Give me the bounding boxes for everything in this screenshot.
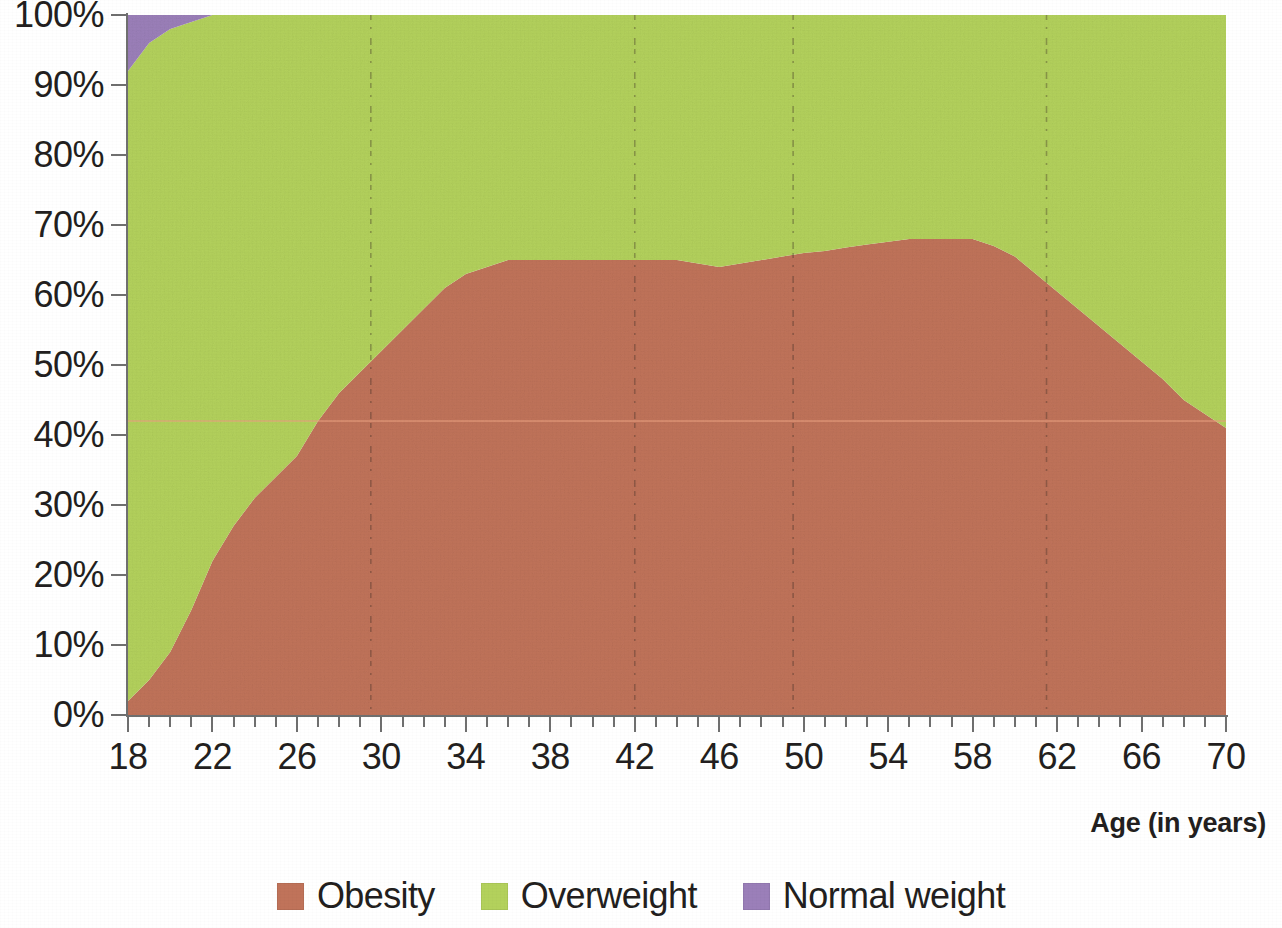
x-axis-tick-minor: [1077, 717, 1079, 727]
area-series-group: [128, 15, 1226, 715]
y-axis-tick: [111, 504, 126, 506]
x-axis-tick-minor: [908, 717, 910, 727]
x-axis-tick-minor: [507, 717, 509, 727]
y-axis-tick: [111, 84, 126, 86]
y-axis-line: [126, 13, 128, 717]
x-axis-tick-label: 58: [938, 737, 1008, 777]
x-axis-tick-minor: [929, 717, 931, 727]
x-axis-tick-minor: [592, 717, 594, 727]
plot-area: [128, 15, 1226, 715]
x-axis-tick-label: 42: [600, 737, 670, 777]
y-axis-tick: [111, 294, 126, 296]
x-axis-tick-label: 70: [1191, 737, 1261, 777]
x-axis-tick-minor: [993, 717, 995, 727]
x-axis-tick-major: [211, 717, 213, 732]
x-axis-tick-label: 46: [684, 737, 754, 777]
x-axis-tick-major: [634, 717, 636, 732]
stacked-area-plot: [128, 15, 1226, 715]
y-axis-tick: [111, 154, 126, 156]
y-axis-tick-label: 60%: [0, 277, 104, 313]
x-axis-tick-major: [465, 717, 467, 732]
x-axis-tick-label: 62: [1022, 737, 1092, 777]
legend-item-label: Obesity: [317, 878, 435, 914]
y-axis-tick-label: 30%: [0, 487, 104, 523]
y-axis-tick-label: 100%: [0, 0, 104, 33]
x-axis-tick-minor: [1014, 717, 1016, 727]
x-axis-tick-minor: [782, 717, 784, 727]
x-axis-tick-major: [127, 717, 129, 732]
x-axis-tick-minor: [697, 717, 699, 727]
x-axis-tick-minor: [845, 717, 847, 727]
y-axis-tick: [111, 434, 126, 436]
x-axis-tick-label: 26: [262, 737, 332, 777]
y-axis-tick: [111, 364, 126, 366]
x-axis-tick-label: 50: [769, 737, 839, 777]
chart-root: 100%90%80%70%60%50%40%30%20%10%0% 182226…: [0, 0, 1282, 928]
x-axis-tick-label: 18: [93, 737, 163, 777]
x-axis-tick-minor: [486, 717, 488, 727]
x-axis-tick-major: [1141, 717, 1143, 732]
x-axis-tick-label: 22: [177, 737, 247, 777]
x-axis-tick-minor: [423, 717, 425, 727]
x-axis-tick-major: [718, 717, 720, 732]
x-axis-tick-minor: [1119, 717, 1121, 727]
x-axis-tick-minor: [676, 717, 678, 727]
legend-item-overweight[interactable]: Overweight: [481, 878, 697, 914]
legend-item-label: Overweight: [521, 878, 697, 914]
x-axis-tick-label: 38: [515, 737, 585, 777]
x-axis-tick-minor: [613, 717, 615, 727]
y-axis-tick: [111, 574, 126, 576]
y-axis-tick-label: 70%: [0, 207, 104, 243]
legend-swatch-icon: [481, 883, 508, 910]
x-axis-tick-major: [972, 717, 974, 732]
x-axis-tick-minor: [190, 717, 192, 727]
x-axis-tick-minor: [951, 717, 953, 727]
y-axis-tick: [111, 644, 126, 646]
chart-legend: Obesity Overweight Normal weight: [0, 878, 1282, 914]
x-axis-tick-minor: [1035, 717, 1037, 727]
x-axis-tick-major: [887, 717, 889, 732]
y-axis-tick: [111, 224, 126, 226]
x-axis-tick-label: 54: [853, 737, 923, 777]
x-axis-tick-major: [1056, 717, 1058, 732]
y-axis-tick-label: 0%: [0, 697, 104, 733]
y-axis-tick-label: 50%: [0, 347, 104, 383]
x-axis-tick-major: [803, 717, 805, 732]
x-axis-tick-minor: [254, 717, 256, 727]
x-axis-tick-minor: [402, 717, 404, 727]
x-axis-tick-minor: [317, 717, 319, 727]
legend-swatch-icon: [277, 883, 304, 910]
x-axis-tick-minor: [148, 717, 150, 727]
x-axis-tick-minor: [528, 717, 530, 727]
y-axis-tick: [111, 714, 126, 716]
legend-item-normal-weight[interactable]: Normal weight: [743, 878, 1005, 914]
y-axis-tick: [111, 14, 126, 16]
x-axis-tick-minor: [169, 717, 171, 727]
x-axis-tick-label: 30: [346, 737, 416, 777]
x-axis-title: Age (in years): [1090, 808, 1266, 839]
x-axis-tick-minor: [655, 717, 657, 727]
x-axis-tick-minor: [1204, 717, 1206, 727]
x-axis-tick-minor: [570, 717, 572, 727]
y-axis-tick-label: 90%: [0, 67, 104, 103]
x-axis-tick-minor: [233, 717, 235, 727]
legend-item-label: Normal weight: [783, 878, 1005, 914]
legend-item-obesity[interactable]: Obesity: [277, 878, 435, 914]
x-axis-tick-major: [549, 717, 551, 732]
x-axis-tick-minor: [866, 717, 868, 727]
y-axis-tick-label: 10%: [0, 627, 104, 663]
x-axis-tick-minor: [338, 717, 340, 727]
x-axis-tick-minor: [1098, 717, 1100, 727]
x-axis-tick-major: [296, 717, 298, 732]
x-axis-tick-minor: [275, 717, 277, 727]
y-axis-tick-label: 80%: [0, 137, 104, 173]
x-axis-tick-minor: [444, 717, 446, 727]
y-axis-tick-label: 20%: [0, 557, 104, 593]
x-axis-tick-minor: [1183, 717, 1185, 727]
x-axis-tick-minor: [359, 717, 361, 727]
x-axis-tick-minor: [824, 717, 826, 727]
x-axis-tick-label: 34: [431, 737, 501, 777]
legend-swatch-icon: [743, 883, 770, 910]
x-axis-tick-minor: [760, 717, 762, 727]
y-axis-tick-label: 40%: [0, 417, 104, 453]
